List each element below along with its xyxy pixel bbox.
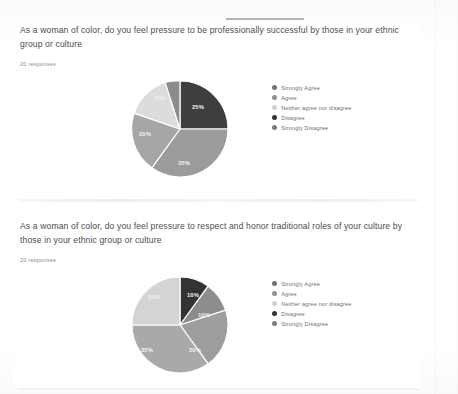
legend-label: Disagree — [281, 115, 305, 121]
legend-label: Strongly Disagree — [281, 125, 328, 131]
legend-2: Strongly Agree Agree Neither agree nor d… — [272, 279, 412, 329]
pie-label-neither-1: 20% — [139, 131, 151, 137]
legend-swatch-icon — [272, 95, 277, 100]
page-bottom-separator — [18, 388, 418, 390]
legend-item-agree-2[interactable]: Agree — [272, 289, 412, 298]
legend-swatch-icon — [272, 105, 277, 110]
legend-1: Strongly Agree Agree Neither agree nor d… — [272, 83, 412, 133]
pie-label-strongly-agree-1: 25% — [192, 104, 204, 110]
pie-svg-1: 25% 35% 20% 15% — [128, 77, 232, 181]
legend-label: Neither agree nor disagree — [281, 105, 351, 111]
pie-label-disagree-2: 35% — [141, 347, 153, 353]
legend-swatch-icon — [272, 281, 277, 286]
question-title-1: As a woman of color, do you feel pressur… — [14, 24, 420, 51]
legend-swatch-icon — [272, 311, 277, 316]
response-count-2: 20 responses — [14, 256, 420, 265]
survey-result-card-1: As a woman of color, do you feel pressur… — [14, 24, 420, 192]
legend-item-neither-1[interactable]: Neither agree nor disagree — [272, 103, 412, 112]
legend-label: Agree — [281, 291, 297, 297]
pie-label-strongly-agree-2: 10% — [187, 292, 199, 298]
card-separator — [18, 199, 418, 202]
legend-label: Neither agree nor disagree — [281, 301, 351, 307]
pie-label-agree-1: 35% — [178, 160, 190, 166]
legend-item-strongly-disagree-2[interactable]: Strongly Disagree — [272, 319, 412, 328]
question-title-2: As a woman of color, do you feel pressur… — [14, 220, 420, 247]
pie-label-agree-2: 10% — [198, 312, 210, 318]
legend-item-strongly-disagree-1[interactable]: Strongly Disagree — [272, 123, 412, 132]
legend-label: Strongly Disagree — [281, 321, 328, 327]
legend-label: Disagree — [281, 311, 305, 317]
legend-item-disagree-2[interactable]: Disagree — [272, 309, 412, 318]
scanned-page: As a woman of color, do you feel pressur… — [0, 0, 458, 394]
legend-label: Strongly Agree — [281, 85, 320, 91]
pie-label-disagree-1: 15% — [153, 95, 165, 101]
pie-chart-1: 25% 35% 20% 15% — [128, 77, 232, 181]
legend-item-strongly-agree-2[interactable]: Strongly Agree — [272, 279, 412, 288]
scan-edge-line — [435, 0, 436, 394]
legend-item-neither-2[interactable]: Neither agree nor disagree — [272, 299, 412, 308]
legend-label: Strongly Agree — [281, 281, 320, 287]
pie-svg-2: 10% 10% 20% 35% 25% — [128, 273, 232, 377]
legend-swatch-icon — [272, 125, 277, 130]
scan-artifact-mark — [226, 18, 304, 20]
legend-item-agree-1[interactable]: Agree — [272, 93, 412, 102]
pie-chart-2: 10% 10% 20% 35% 25% — [128, 273, 232, 377]
legend-swatch-icon — [272, 321, 277, 326]
pie-slice-strongly-disagree-2 — [132, 277, 180, 325]
legend-item-strongly-agree-1[interactable]: Strongly Agree — [272, 83, 412, 92]
chart-area-1: 25% 35% 20% 15% Strongly Agree Agree N — [14, 75, 420, 183]
legend-swatch-icon — [272, 301, 277, 306]
legend-swatch-icon — [272, 291, 277, 296]
legend-item-disagree-1[interactable]: Disagree — [272, 113, 412, 122]
chart-area-2: 10% 10% 20% 35% 25% Strongly Agree Agree — [14, 271, 420, 379]
legend-swatch-icon — [272, 85, 277, 90]
pie-label-neither-2: 20% — [189, 347, 201, 353]
legend-swatch-icon — [272, 115, 277, 120]
survey-result-card-2: As a woman of color, do you feel pressur… — [14, 220, 420, 388]
response-count-1: 20 responses — [14, 60, 420, 69]
pie-label-strongly-disagree-2: 25% — [148, 294, 160, 300]
legend-label: Agree — [281, 95, 297, 101]
